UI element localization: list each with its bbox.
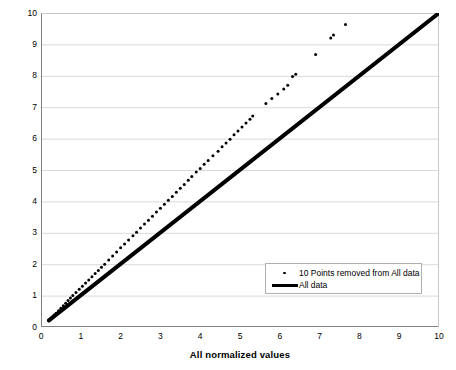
x-tick-label: 1 xyxy=(69,331,93,341)
x-tick-label: 9 xyxy=(387,331,411,341)
y-tick-label: 6 xyxy=(9,133,37,143)
legend-label-points-removed: 10 Points removed from All data xyxy=(299,268,419,279)
x-tick-label: 8 xyxy=(347,331,371,341)
y-tick-label: 0 xyxy=(9,322,37,332)
gridlines xyxy=(41,14,439,297)
x-tick-label: 3 xyxy=(148,331,172,341)
y-tick-label: 2 xyxy=(9,259,37,269)
legend-dot-marker-icon xyxy=(271,268,299,279)
x-axis-tick-labels: 012345678910 xyxy=(41,331,439,345)
chart-legend: 10 Points removed from All data All data xyxy=(265,263,422,294)
y-tick-label: 4 xyxy=(9,196,37,206)
x-tick-label: 0 xyxy=(29,331,53,341)
legend-entry-all-data: All data xyxy=(266,279,421,291)
x-tick-label: 2 xyxy=(109,331,133,341)
y-tick-label: 9 xyxy=(9,39,37,49)
legend-line-marker-icon xyxy=(271,280,299,291)
x-tick-label: 10 xyxy=(427,331,451,341)
y-tick-label: 5 xyxy=(9,165,37,175)
x-axis-title: All normalized values xyxy=(41,349,439,360)
y-tick-label: 1 xyxy=(9,290,37,300)
x-tick-label: 4 xyxy=(188,331,212,341)
x-tick-label: 5 xyxy=(228,331,252,341)
y-tick-label: 3 xyxy=(9,227,37,237)
y-tick-label: 7 xyxy=(9,102,37,112)
legend-label-all-data: All data xyxy=(299,280,327,291)
y-tick-label: 8 xyxy=(9,70,37,80)
scatter-chart: 10 Points removed from Normalized Values… xyxy=(0,0,456,370)
x-tick-label: 7 xyxy=(308,331,332,341)
x-tick-label: 6 xyxy=(268,331,292,341)
y-axis-tick-labels: 012345678910 xyxy=(6,13,37,327)
legend-entry-points-removed: 10 Points removed from All data xyxy=(266,267,421,279)
y-tick-label: 10 xyxy=(9,8,37,18)
